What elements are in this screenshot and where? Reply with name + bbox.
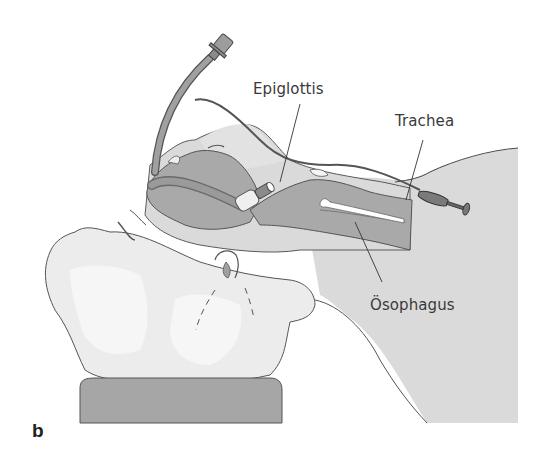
label-esophagus: Ösophagus — [370, 296, 455, 314]
label-trachea: Trachea — [395, 112, 454, 130]
anatomy-drawing — [0, 0, 538, 453]
panel-letter: b — [32, 420, 44, 442]
pillow — [80, 378, 282, 423]
intubation-illustration: Epiglottis Trachea Ösophagus b — [0, 0, 538, 453]
label-epiglottis: Epiglottis — [253, 80, 324, 98]
